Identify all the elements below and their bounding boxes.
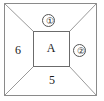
label-top-text: ① (42, 14, 57, 29)
label-center-a: A (44, 42, 58, 54)
label-top-circled-one: ① (42, 14, 57, 29)
label-right-circled-two: ② (73, 44, 88, 59)
figure-container: ① ② 6 5 A (0, 0, 104, 101)
label-right-text: ② (73, 44, 88, 59)
label-left-six: 6 (13, 44, 23, 56)
label-bottom-five: 5 (47, 74, 57, 86)
